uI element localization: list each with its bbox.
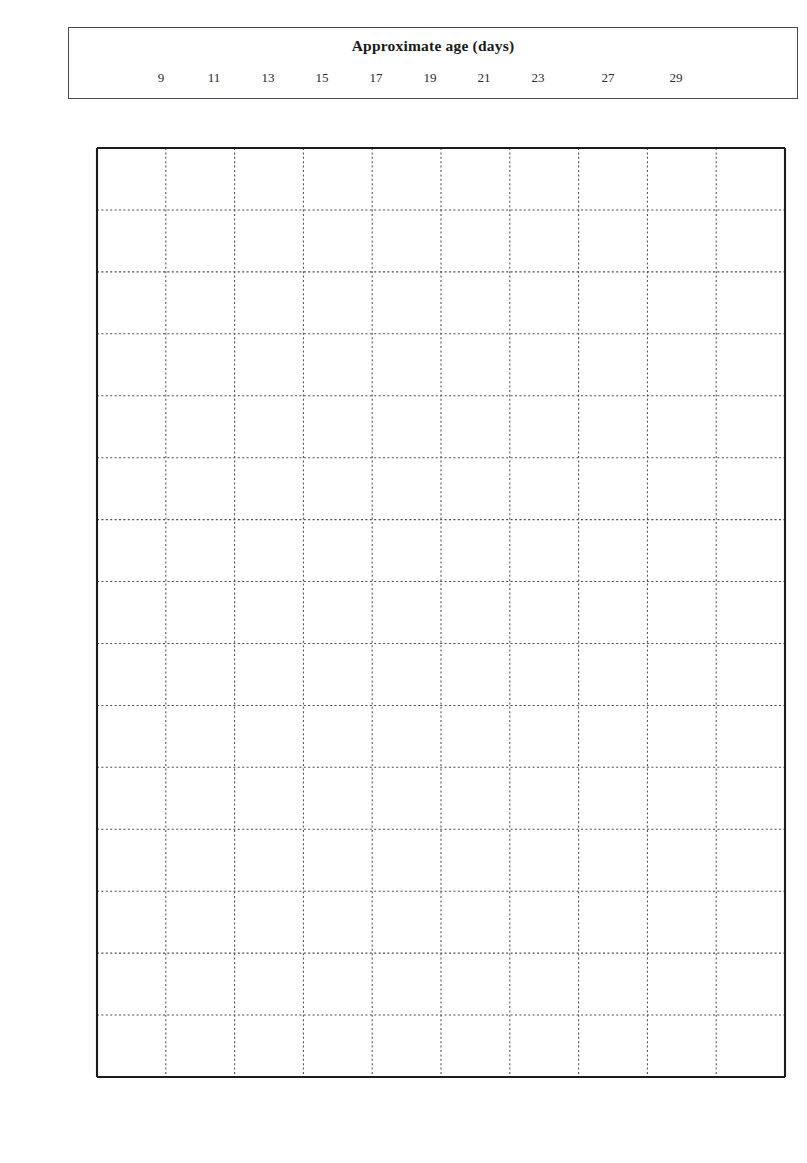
scatter-chart bbox=[0, 110, 807, 1163]
chart-canvas bbox=[0, 110, 807, 1163]
age-tick-label: 17 bbox=[370, 70, 383, 86]
age-tick-label: 13 bbox=[262, 70, 275, 86]
approximate-age-axis-box: Approximate age (days) 91113151719212327… bbox=[68, 27, 798, 99]
age-tick-label: 15 bbox=[316, 70, 329, 86]
approximate-age-tick-labels: 9111315171921232729 bbox=[69, 70, 797, 94]
approximate-age-axis-title: Approximate age (days) bbox=[69, 37, 797, 55]
age-tick-label: 21 bbox=[478, 70, 491, 86]
age-tick-label: 29 bbox=[670, 70, 683, 86]
age-tick-label: 11 bbox=[208, 70, 221, 86]
age-tick-label: 9 bbox=[158, 70, 165, 86]
age-tick-label: 27 bbox=[602, 70, 615, 86]
axes-group bbox=[97, 148, 785, 1077]
age-tick-label: 19 bbox=[424, 70, 437, 86]
gridlines-group bbox=[97, 148, 785, 1077]
age-tick-label: 23 bbox=[532, 70, 545, 86]
